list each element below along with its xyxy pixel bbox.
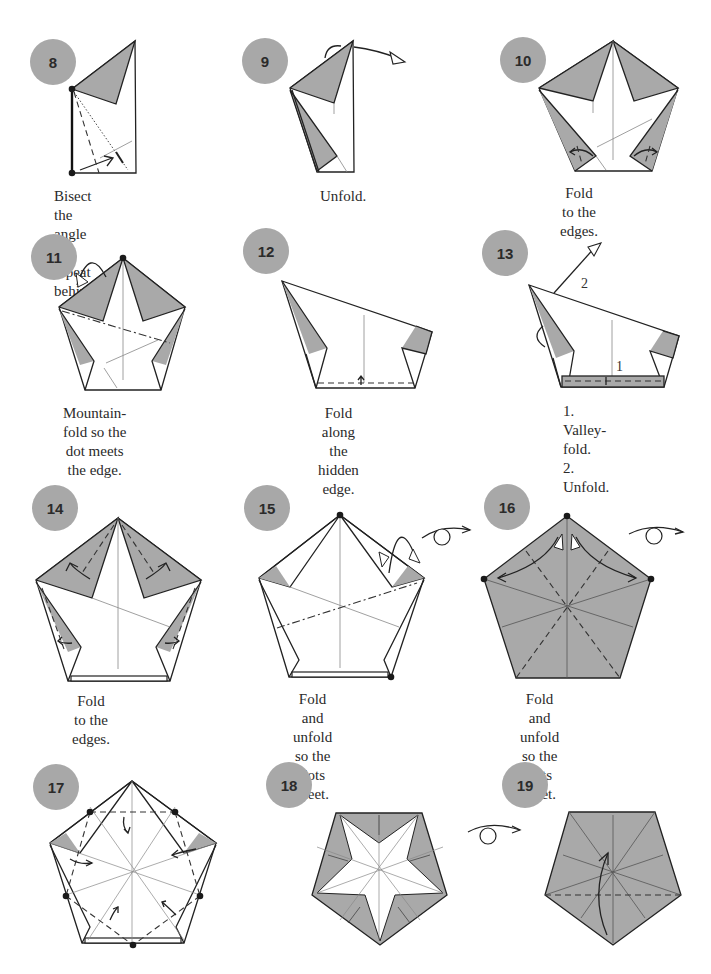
dot-marker <box>172 809 179 816</box>
unfold-arrow-icon <box>390 52 405 64</box>
dot-marker <box>648 576 655 583</box>
dot-marker <box>87 809 94 816</box>
step-15-figure <box>237 455 474 695</box>
step-11-figure <box>0 225 237 375</box>
dot-marker <box>197 893 204 900</box>
step-18-figure <box>260 735 490 974</box>
step-10-figure <box>474 0 711 180</box>
step-17-figure <box>0 735 260 974</box>
step-14-figure <box>0 455 237 695</box>
step-16-figure <box>474 455 711 695</box>
step-12-figure <box>237 225 474 375</box>
step-13-figure: 2 1 <box>474 225 711 375</box>
fold-label-1: 1 <box>616 359 623 374</box>
dot-marker <box>481 576 488 583</box>
unfold-arrow-icon <box>588 243 601 256</box>
step-19-figure <box>480 735 711 974</box>
step-8-figure <box>0 0 237 180</box>
step-caption: Unfold. <box>320 187 366 206</box>
turn-over-icon <box>627 520 687 555</box>
step-9-figure <box>237 0 474 180</box>
dot-marker <box>120 255 127 262</box>
dot-marker <box>130 942 137 949</box>
dot-marker <box>564 513 571 520</box>
turn-over-icon <box>420 520 475 555</box>
dot-marker <box>388 674 395 681</box>
dot-marker <box>69 170 76 177</box>
dot-marker <box>63 893 70 900</box>
dot-marker <box>69 86 76 93</box>
fold-label-2: 2 <box>581 276 588 291</box>
dot-marker <box>337 512 344 519</box>
